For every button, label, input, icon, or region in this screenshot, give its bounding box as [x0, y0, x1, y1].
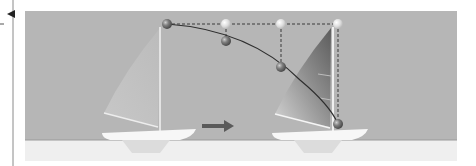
point-ball-dark: [162, 19, 172, 29]
point-ball-dark: [276, 62, 286, 72]
point-ball-dark: [221, 36, 231, 46]
point-ball-dark: [333, 119, 343, 129]
water-panel: [25, 140, 457, 161]
sailboat-diagram: [0, 0, 476, 166]
point-ball-light: [276, 19, 286, 29]
point-ball-light: [333, 19, 343, 29]
sky-panel: [25, 11, 457, 58]
point-ball-light: [221, 19, 231, 29]
sky-panel-lower: [25, 58, 457, 140]
left-pointer-arrow-icon: [7, 10, 15, 18]
diagram-canvas: [0, 0, 476, 166]
